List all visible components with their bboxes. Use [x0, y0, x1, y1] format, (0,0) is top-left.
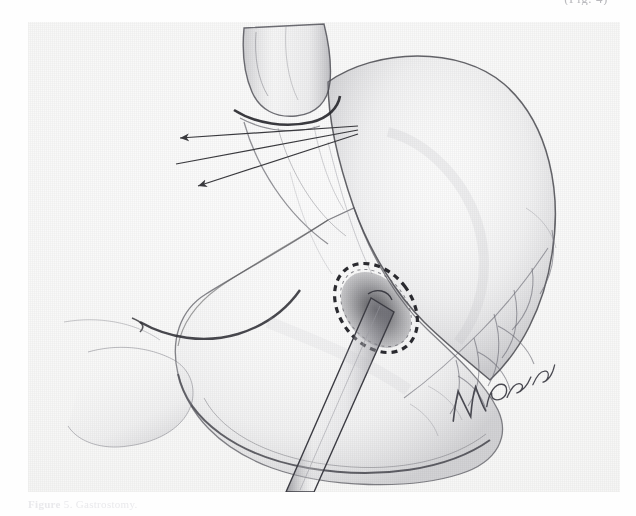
gastroesophageal-junction: [234, 96, 346, 244]
esophagus: [243, 24, 330, 116]
page-running-text: (Fig. 4): [0, 0, 636, 5]
figure-caption-number: 5.: [64, 498, 73, 510]
scanned-page: (Fig. 4): [0, 0, 636, 516]
arrow-upper: [180, 126, 358, 138]
gastric-antrum: [64, 320, 193, 447]
arrow-middle: [176, 130, 358, 164]
figure-plate: [28, 22, 620, 492]
figure-caption-label: Figure: [28, 498, 61, 510]
figure-caption: Figure 5. Gastrostomy.: [28, 498, 448, 510]
arrow-lower: [198, 134, 358, 186]
figure-caption-text: Gastrostomy.: [76, 498, 138, 510]
